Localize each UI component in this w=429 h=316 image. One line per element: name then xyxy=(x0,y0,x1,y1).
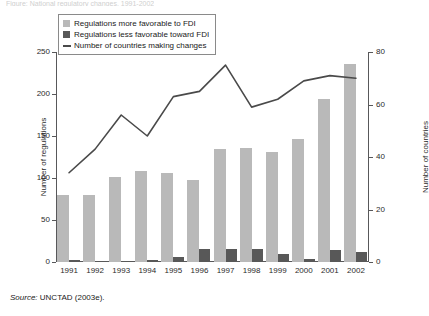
x-axis-tick-label: 1997 xyxy=(213,266,239,275)
figure-title: Figure: National regulatory changes, 199… xyxy=(6,0,154,6)
y-axis-right-tick xyxy=(369,105,373,106)
x-axis-tick-label: 1999 xyxy=(265,266,291,275)
figure-container: Figure: National regulatory changes, 199… xyxy=(0,0,429,316)
x-axis-tick-label: 2002 xyxy=(343,266,369,275)
x-axis-tick-label: 1996 xyxy=(186,266,212,275)
x-axis-tick-label: 1998 xyxy=(239,266,265,275)
x-axis-tick-label: 1992 xyxy=(82,266,108,275)
y-axis-right-tick-label: 0 xyxy=(376,258,406,266)
y-axis-right-tick-label: 80 xyxy=(376,48,406,56)
y-axis-right-tick xyxy=(369,210,373,211)
y-axis-left-tick-label: 0 xyxy=(20,258,50,266)
x-axis-tick-label: 2001 xyxy=(317,266,343,275)
countries-line xyxy=(69,65,356,173)
y-axis-left-tick-label: 50 xyxy=(20,216,50,224)
y-axis-right-title: Number of countries xyxy=(421,121,429,193)
source-label: Source: xyxy=(10,293,38,302)
y-axis-left-tick-label: 200 xyxy=(20,90,50,98)
chart-legend: Regulations more favorable to FDI Regula… xyxy=(58,14,216,55)
y-axis-right-tick xyxy=(369,52,373,53)
line-swatch-icon xyxy=(63,42,70,49)
legend-label: Regulations less favorable toward FDI xyxy=(74,30,209,39)
legend-item-less-favorable: Regulations less favorable toward FDI xyxy=(63,29,209,40)
y-axis-left-tick-label: 250 xyxy=(20,48,50,56)
source-text: UNCTAD (2003e). xyxy=(40,293,105,302)
x-axis-tick-label: 1991 xyxy=(56,266,82,275)
y-axis-right-tick xyxy=(369,262,373,263)
y-axis-right-tick-label: 40 xyxy=(376,153,406,161)
legend-item-more-favorable: Regulations more favorable to FDI xyxy=(63,18,209,29)
y-axis-right-tick xyxy=(369,157,373,158)
x-axis-tick-label: 2000 xyxy=(291,266,317,275)
plot-area: 050100150200250 020406080 19911992199319… xyxy=(56,52,369,262)
square-light-swatch-icon xyxy=(63,20,70,27)
legend-item-countries: Number of countries making changes xyxy=(63,40,209,51)
legend-label: Regulations more favorable to FDI xyxy=(74,19,196,28)
line-series-layer xyxy=(56,52,369,262)
y-axis-right-tick-label: 60 xyxy=(376,101,406,109)
x-axis-tick-label: 1994 xyxy=(134,266,160,275)
y-axis-left-tick xyxy=(52,262,56,263)
y-axis-left-title: Number of regulations xyxy=(39,118,48,197)
square-dark-swatch-icon xyxy=(63,31,70,38)
source-caption: Source: UNCTAD (2003e). xyxy=(10,293,105,302)
x-axis-tick-label: 1995 xyxy=(160,266,186,275)
x-axis-tick-label: 1993 xyxy=(108,266,134,275)
y-axis-right-tick-label: 20 xyxy=(376,206,406,214)
legend-label: Number of countries making changes xyxy=(74,41,207,50)
